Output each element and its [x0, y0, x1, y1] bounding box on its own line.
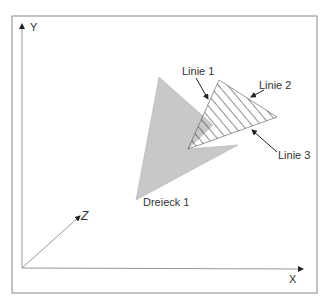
- linie-2-label: Linie 2: [259, 80, 291, 91]
- x-axis: [22, 268, 303, 269]
- linie-2-pointer: [251, 90, 264, 97]
- linie-1-pointer: [196, 78, 208, 99]
- linie-3-label: Linie 3: [278, 150, 310, 161]
- linie-1-label: Linie 1: [182, 66, 214, 77]
- z-axis: [22, 216, 80, 268]
- x-axis-label: X: [289, 274, 296, 285]
- y-axis-label: Y: [30, 22, 37, 33]
- linie-3-pointer: [252, 130, 277, 152]
- dreieck-1-label: Dreieck 1: [143, 197, 189, 208]
- z-axis-label: Z: [81, 210, 88, 222]
